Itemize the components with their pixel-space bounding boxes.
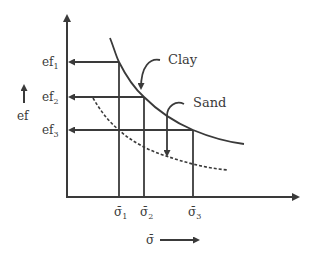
sand-label: Sand <box>193 95 226 110</box>
ef3-label: ef3 <box>42 123 59 139</box>
x-axis-label: σ̄ <box>146 233 154 247</box>
sigma3-label: σ̄3 <box>188 205 201 221</box>
clay-label: Clay <box>168 52 198 67</box>
ef1-label: ef1 <box>42 55 59 71</box>
void-ratio-diagram: Clay Sand ef1 ef2 ef3 ef σ̄1 σ̄2 σ̄3 σ̄ <box>0 0 316 258</box>
sigma1-label: σ̄1 <box>114 205 127 221</box>
y-axis-label: ef <box>17 109 30 123</box>
sand-pointer-arrow <box>167 103 184 155</box>
sigma2-label: σ̄2 <box>140 205 153 221</box>
clay-pointer-arrow <box>141 60 160 88</box>
ef2-label: ef2 <box>42 90 59 106</box>
